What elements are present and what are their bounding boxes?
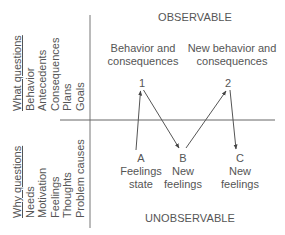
why-questions-heading: Why questions bbox=[11, 118, 24, 218]
caption-new-behavior-and-consequences: New behavior and consequences bbox=[184, 42, 280, 68]
node-b-new-feelings: B New feelings bbox=[153, 152, 213, 191]
node-1: 1 bbox=[136, 77, 148, 90]
what-item-behavior: Behavior bbox=[24, 11, 37, 111]
what-questions-column: What questions Behavior Antecedents Cons… bbox=[11, 11, 87, 111]
node-c-new-feelings: C New feelings bbox=[210, 152, 270, 191]
node-c-label: C bbox=[210, 152, 270, 165]
caption-2-line2: consequences bbox=[184, 55, 280, 68]
why-item-thoughts: Thoughts bbox=[61, 118, 74, 218]
arrow-1-to-b bbox=[144, 90, 180, 148]
what-item-plans: Plans bbox=[61, 11, 74, 111]
why-questions-column: Why questions Needs Motivation Feelings … bbox=[11, 118, 87, 218]
node-b-line2: feelings bbox=[153, 178, 213, 191]
what-item-consequences: Consequences bbox=[49, 11, 62, 111]
caption-behavior-and-consequences: Behavior and consequences bbox=[100, 42, 186, 68]
what-questions-heading: What questions bbox=[11, 11, 24, 111]
node-c-line2: feelings bbox=[210, 178, 270, 191]
diagram-canvas: What questions Behavior Antecedents Cons… bbox=[0, 0, 285, 235]
why-item-motivation: Motivation bbox=[36, 118, 49, 218]
why-item-problem-causes: Problem causes bbox=[74, 118, 87, 218]
caption-2-line1: New behavior and bbox=[184, 42, 280, 55]
node-2: 2 bbox=[222, 77, 234, 90]
what-item-goals: Goals bbox=[74, 11, 87, 111]
node-c-line1: New bbox=[210, 165, 270, 178]
observable-label: OBSERVABLE bbox=[130, 11, 260, 23]
caption-1-line2: consequences bbox=[100, 55, 186, 68]
unobservable-label: UNOBSERVABLE bbox=[125, 212, 255, 224]
node-b-label: B bbox=[153, 152, 213, 165]
why-item-needs: Needs bbox=[24, 118, 37, 218]
node-b-line1: New bbox=[153, 165, 213, 178]
why-item-feelings: Feelings bbox=[49, 118, 62, 218]
caption-1-line1: Behavior and bbox=[100, 42, 186, 55]
what-item-antecedents: Antecedents bbox=[36, 11, 49, 111]
